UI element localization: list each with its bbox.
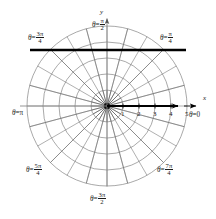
fraction-denominator: 4 <box>165 169 174 177</box>
angle-label-theta-pi-2: θ=π2 <box>92 18 105 32</box>
fraction-numerator: π <box>168 31 173 38</box>
angle-label-theta-pi: θ=π <box>12 110 23 117</box>
angle-label-theta-3pi-2: θ=3π2 <box>90 192 106 206</box>
fraction-numerator: π <box>100 18 105 25</box>
radial-tick-1: 1 <box>121 110 125 118</box>
angle-label-theta-pi-4: θ=π4 <box>160 31 173 45</box>
radial-tick-2: 2 <box>137 110 141 118</box>
fraction-denominator: 4 <box>34 169 43 177</box>
fraction-denominator: 4 <box>36 37 45 45</box>
y-axis-label: y <box>100 8 103 16</box>
zero-value: 0 <box>197 111 201 119</box>
fraction-5pi-over-4: 5π4 <box>34 163 43 177</box>
fraction-denominator: 2 <box>100 24 105 32</box>
fraction-3pi-over-2: 3π2 <box>98 192 107 206</box>
fraction-denominator: 4 <box>168 37 173 45</box>
angle-label-theta-0: θ=0 <box>189 112 200 119</box>
fraction-pi-over-4: π4 <box>168 31 173 45</box>
fraction-denominator: 2 <box>98 198 107 206</box>
fraction-3pi-over-4: 3π4 <box>36 31 45 45</box>
angle-label-theta-5pi-4: θ=5π4 <box>26 163 42 177</box>
angle-label-theta-3pi-4: θ=3π4 <box>28 31 44 45</box>
radial-tick-3: 3 <box>153 110 157 118</box>
radial-tick-4: 4 <box>169 110 173 118</box>
polar-graph-figure: y x 1 2 3 4 5 θ=π2 θ=π4 θ=3π4 θ=π θ=0 θ=… <box>0 0 216 219</box>
radial-tick-5: 5 <box>185 110 189 118</box>
fraction-pi-over-2: π2 <box>100 18 105 32</box>
fraction-numerator: 5π <box>34 163 43 170</box>
angle-label-theta-7pi-4: θ=7π4 <box>157 163 173 177</box>
fraction-numerator: 3π <box>98 192 107 199</box>
fraction-numerator: 7π <box>165 163 174 170</box>
pi-symbol: π <box>20 109 24 117</box>
x-axis-label: x <box>203 94 206 102</box>
fraction-numerator: 3π <box>36 31 45 38</box>
fraction-7pi-over-4: 7π4 <box>165 163 174 177</box>
